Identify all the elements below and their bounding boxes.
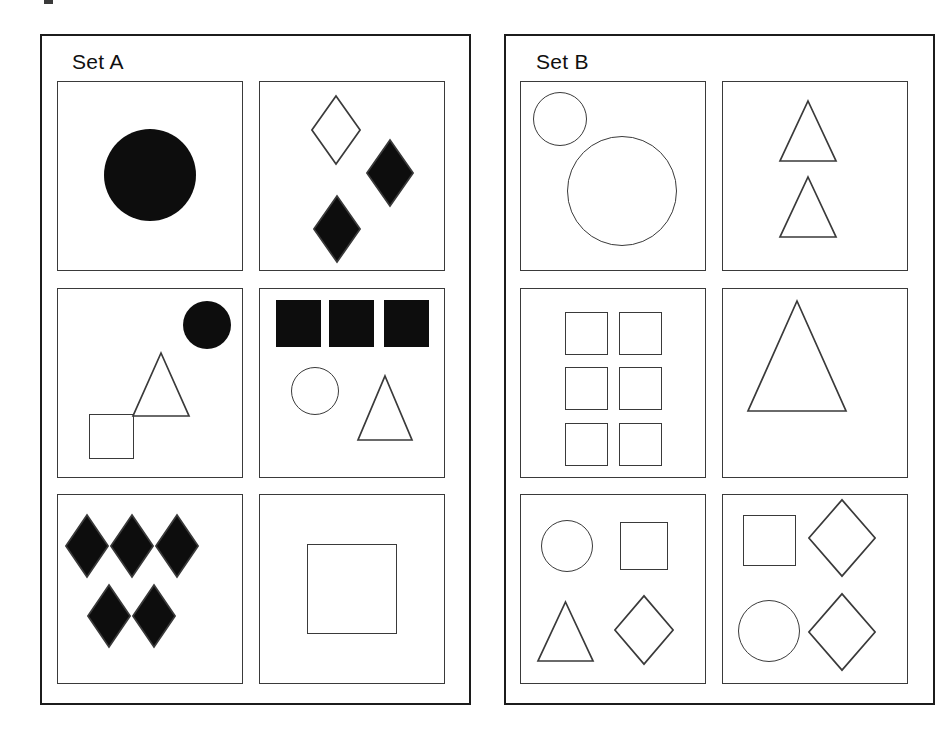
circle-outline-shape	[567, 136, 677, 246]
square-outline-shape	[565, 367, 608, 410]
square-filled-shape	[276, 300, 321, 347]
triangle-outline-shape	[779, 100, 837, 162]
card-set-b-3	[520, 288, 706, 478]
square-outline-shape	[619, 367, 662, 410]
square-filled-shape	[329, 300, 374, 347]
diamond-filled-shape	[155, 514, 199, 578]
circle-outline-shape	[533, 92, 587, 146]
triangle-outline-shape	[779, 176, 837, 238]
square-outline-shape	[565, 312, 608, 355]
circle-outline-shape	[738, 600, 800, 662]
diamond-filled-shape	[110, 514, 154, 578]
circle-outline-shape	[291, 367, 339, 415]
diamond-outline-shape	[614, 595, 674, 665]
circle-filled-shape	[104, 129, 196, 221]
diamond-outline-shape	[311, 95, 361, 165]
square-outline-shape	[743, 515, 796, 566]
circle-outline-shape	[541, 520, 593, 572]
diamond-filled-shape	[65, 514, 109, 578]
square-outline-shape	[619, 423, 662, 466]
square-outline-shape	[89, 414, 134, 459]
diamond-filled-shape	[313, 195, 361, 263]
triangle-outline-shape	[747, 300, 847, 412]
panel-title-set-b: Set B	[536, 50, 589, 74]
triangle-outline-shape	[357, 375, 413, 441]
square-filled-shape	[384, 300, 429, 347]
diamond-outline-shape	[808, 499, 876, 577]
triangle-outline-shape	[537, 601, 594, 662]
diamond-filled-shape	[87, 584, 131, 648]
square-outline-shape	[620, 522, 668, 570]
diamond-filled-shape	[132, 584, 176, 648]
diamond-outline-shape	[808, 593, 876, 671]
clipped-text-artifact	[44, 0, 53, 4]
circle-filled-shape	[183, 301, 231, 349]
panel-title-set-a: Set A	[72, 50, 124, 74]
diamond-filled-shape	[366, 139, 414, 207]
square-outline-shape	[619, 312, 662, 355]
square-outline-shape	[307, 544, 397, 634]
square-outline-shape	[565, 423, 608, 466]
triangle-outline-shape	[132, 352, 190, 417]
